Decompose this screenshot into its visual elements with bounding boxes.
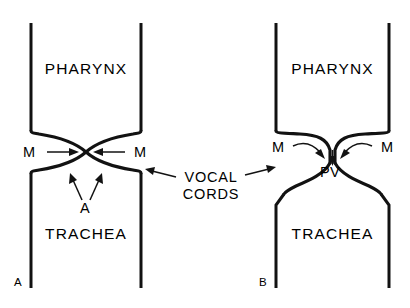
panel-b-muscle-arrow-right-shaft [344, 144, 372, 153]
vocal-cords-diagram: PHARYNX TRACHEA M M A A PHARYNX TRACHEA … [0, 0, 410, 308]
panel-a-airflow-arrow-right-shaft [90, 180, 99, 200]
panel-a-muscle-arrow-right-head [93, 148, 103, 156]
panel-b-muscle-label-left: M [272, 139, 285, 155]
panel-b-letter: B [259, 276, 267, 288]
panel-b-muscle-arrow-right-head [340, 149, 350, 159]
panel-a-muscle-arrow-left-head [69, 148, 79, 156]
panel-b-muscle-arrow-left-head [315, 149, 325, 159]
panel-a-pharynx-label: PHARYNX [31, 60, 141, 78]
panel-a-vocal-cord-right-upper [86, 131, 141, 152]
vocal-cords-arrow-left-shaft [152, 171, 176, 177]
panel-a-vocal-cord-right-lower [86, 152, 141, 173]
panel-a-airflow-label: A [80, 200, 90, 216]
panel-a-letter: A [14, 276, 22, 288]
vocal-cords-arrow-right-shaft [245, 169, 269, 175]
panel-a-airflow-arrow-left-head [69, 173, 77, 184]
diagram-canvas [0, 0, 410, 308]
vocal-cords-label-line2: CORDS [178, 186, 244, 202]
panel-a-vocal-cord-left-upper [31, 131, 86, 152]
panel-b-trachea-label: TRACHEA [276, 225, 389, 243]
panel-b-pharynx-label: PHARYNX [276, 60, 389, 78]
panel-b-muscle-label-right: M [381, 139, 394, 155]
vocal-cords-arrow-left-head [145, 167, 155, 175]
vocal-cords-label-line1: VOCAL [178, 169, 244, 185]
panel-b-muscle-arrow-left-shaft [293, 144, 321, 153]
panel-b-pressure-label: PV [320, 164, 340, 180]
panel-a-trachea-label: TRACHEA [31, 225, 141, 243]
panel-a-muscle-label-right: M [134, 144, 147, 160]
vocal-cords-arrow-right-head [266, 165, 276, 173]
panel-a-airflow-arrow-right-head [95, 173, 103, 184]
panel-a-airflow-arrow-left-shaft [73, 180, 82, 200]
panel-a-muscle-label-left: M [23, 144, 36, 160]
panel-a-vocal-cord-left-lower [31, 152, 86, 173]
panel-b-vocal-cord-right-lower [335, 163, 381, 194]
